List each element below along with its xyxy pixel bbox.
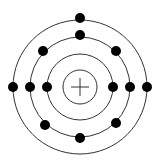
nucleus	[63, 70, 97, 104]
electron	[75, 133, 85, 143]
electron	[42, 82, 52, 92]
electron	[142, 82, 152, 92]
electron	[75, 13, 85, 23]
electron	[111, 118, 121, 128]
electron	[125, 82, 135, 92]
electron	[8, 82, 18, 92]
electron	[38, 46, 48, 56]
electron	[25, 82, 35, 92]
atom-diagram	[0, 0, 161, 168]
electron	[75, 30, 85, 40]
electron	[111, 46, 121, 56]
electron	[40, 120, 50, 130]
electron	[108, 82, 118, 92]
